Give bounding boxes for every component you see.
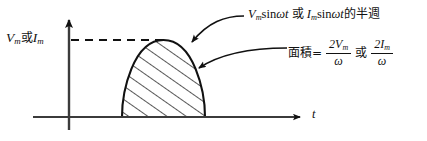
area-fraction-current-numerator: 2Im (371, 38, 393, 53)
area-i-numerator-subscript: m (384, 43, 390, 52)
waveform-v-symbol: V (248, 7, 256, 21)
area-fraction-current-denominator: ω (375, 54, 389, 67)
sine-half-cycle-figure: Vm或Im t Vmsinωt 或 Imsinωt的半週 面積= 2Vm ω 或… (0, 0, 427, 141)
area-fraction-voltage: 2Vm ω (326, 38, 351, 67)
area-fraction-current: 2Im ω (371, 38, 393, 67)
waveform-omega-2: ω (332, 7, 341, 21)
area-leader-arrow (199, 48, 287, 68)
waveform-sin-1: sin (262, 7, 277, 21)
y-axis-v-symbol: V (6, 30, 14, 45)
waveform-sin-2: sin (317, 7, 332, 21)
area-i-numerator-symbol: 2I (374, 37, 384, 51)
waveform-leader-arrow (192, 16, 244, 42)
area-fraction-voltage-denominator: ω (331, 54, 345, 67)
y-axis-conjunction: 或 (21, 31, 33, 45)
waveform-omega-1: ω (276, 7, 285, 21)
area-annotation: 面積= 2Vm ω 或 2Im ω (288, 38, 393, 67)
area-label-lead: 面積= (288, 47, 322, 59)
waveform-t-1: t (285, 7, 288, 21)
area-fraction-voltage-numerator: 2Vm (326, 38, 351, 53)
x-axis-label: t (312, 108, 315, 121)
waveform-annotation: Vmsinωt 或 Imsinωt的半週 (248, 8, 380, 23)
area-conjunction: 或 (355, 47, 367, 59)
area-v-numerator-symbol: 2V (329, 37, 342, 51)
waveform-half-cycle-text: 的半週 (344, 7, 380, 21)
y-axis-amplitude-label: Vm或Im (6, 31, 44, 46)
shaded-area (122, 40, 205, 117)
area-v-numerator-subscript: m (342, 43, 348, 52)
waveform-conjunction: 或 (292, 7, 304, 21)
y-axis-i-subscript: m (37, 36, 43, 46)
